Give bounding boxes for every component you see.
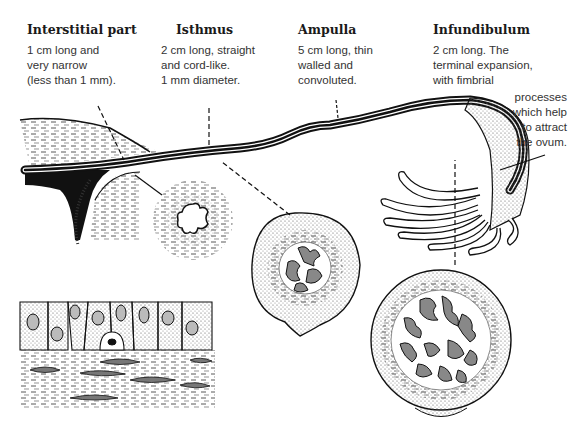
isthmus-cross-section <box>153 180 233 260</box>
section-title: Infundibulum <box>433 22 533 37</box>
description-line: very narrow <box>27 59 87 71</box>
section-label-isthmus: Isthmus 2 cm long, straight and cord-lik… <box>174 22 255 88</box>
description-line: with fimbrial <box>433 74 494 86</box>
epithelium-histology-inset <box>20 300 215 408</box>
section-description: 2 cm long, straight and cord-like. 1 mm … <box>161 43 255 88</box>
section-title: Isthmus <box>176 22 255 37</box>
section-description: 2 cm long. The terminal expansion, with … <box>433 43 533 88</box>
ampulla-cross-section <box>252 213 360 336</box>
description-line: which help <box>513 106 567 118</box>
description-line: processes <box>515 91 567 103</box>
description-line: the ovum. <box>517 136 568 148</box>
section-description: 5 cm long, thin walled and convoluted. <box>298 43 373 88</box>
description-line: to attract <box>522 121 567 133</box>
description-line: 5 cm long, thin <box>298 44 373 56</box>
description-line: terminal expansion, <box>433 59 533 71</box>
description-line: convoluted. <box>298 74 357 86</box>
description-line: 2 cm long. The <box>433 44 509 56</box>
description-line: 1 mm diameter. <box>161 74 240 86</box>
infundibulum-description-continued: processes which help to attract the ovum… <box>447 90 567 150</box>
section-label-ampulla: Ampulla 5 cm long, thin walled and convo… <box>298 22 373 88</box>
description-line: 1 cm long and <box>27 44 99 56</box>
description-line: walled and <box>298 59 353 71</box>
section-title: Interstitial part <box>27 22 137 37</box>
description-line: and cord-like. <box>161 59 230 71</box>
infundibulum-cross-section <box>371 270 511 417</box>
section-label-interstitial: Interstitial part 1 cm long and very nar… <box>27 22 137 88</box>
description-line: 2 cm long, straight <box>161 44 255 56</box>
section-label-infundibulum: Infundibulum 2 cm long. The terminal exp… <box>433 22 533 88</box>
uterine-wall <box>20 119 160 245</box>
description-line: (less than 1 mm). <box>27 74 116 86</box>
section-description: 1 cm long and very narrow (less than 1 m… <box>27 43 137 88</box>
section-title: Ampulla <box>298 22 373 37</box>
